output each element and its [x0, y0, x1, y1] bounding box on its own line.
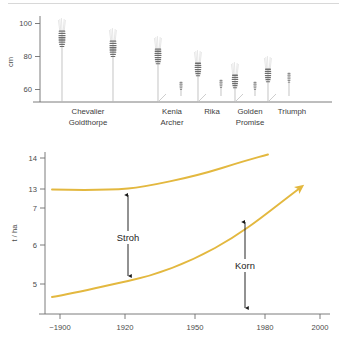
- bottom-chart-y-ticks: 14 13 7 6 5: [29, 154, 45, 289]
- plant-archer: [179, 82, 182, 96]
- bottom-x-tick-2000: 2000: [312, 323, 329, 332]
- top-chart-y-axis-title: cm: [6, 57, 15, 67]
- series-label-stroh-top: Stroh: [117, 232, 139, 243]
- top-y-tick-60: 60: [24, 85, 32, 94]
- plant-golden-promise-secondary: [253, 82, 256, 96]
- series-label-korn-top: Korn: [235, 260, 255, 271]
- bottom-x-tick-1920: 1920: [117, 323, 134, 332]
- bottom-y-tick-7: 7: [33, 204, 37, 213]
- bottom-x-tick-1950: 1950: [187, 323, 204, 332]
- yield-trend-chart: 14 13 7 6 5 t / ha ~1900 1920 1950 1980 …: [0, 134, 339, 351]
- plant-goldthorpe: [109, 28, 116, 102]
- plant-chevalier: [58, 18, 65, 102]
- plant-rika: [194, 50, 206, 102]
- plant-triumph: [264, 56, 276, 102]
- cat-label-rika: Rika: [204, 107, 220, 116]
- cat-label-triumph: Triumph: [278, 107, 306, 116]
- cat-label-golden-l1: Golden: [237, 107, 262, 116]
- cat-label-golden-l2: Promise: [236, 118, 265, 127]
- bottom-y-tick-6: 6: [33, 241, 37, 250]
- panel-plant-heights: 100 80 60 cm: [0, 6, 339, 134]
- plant-triumph-secondary: [287, 73, 290, 96]
- top-y-tick-100: 100: [19, 19, 32, 28]
- figure-root: 100 80 60 cm: [0, 0, 339, 351]
- plant-kenia: [154, 36, 166, 102]
- curve-stroh: [52, 155, 268, 191]
- cat-label-kenia-l2: Archer: [161, 118, 184, 127]
- bottom-y-tick-13: 13: [29, 185, 37, 194]
- top-divider-rule: [8, 3, 339, 4]
- plant-rika-secondary: [219, 80, 222, 96]
- plant-height-chart: 100 80 60 cm: [0, 6, 339, 134]
- top-y-tick-80: 80: [24, 52, 32, 61]
- curve-korn: [52, 188, 300, 297]
- cat-label-kenia-l1: Kenia: [162, 107, 183, 116]
- bottom-x-tick-1900: ~1900: [49, 323, 70, 332]
- plant-golden-promise: [231, 62, 243, 102]
- bottom-chart-y-axis-title: t / ha: [10, 224, 19, 242]
- bottom-y-tick-14: 14: [29, 154, 37, 163]
- top-chart-y-ticks: 100 80 60: [19, 19, 40, 94]
- bottom-chart-x-ticks: ~1900 1920 1950 1980 2000: [49, 314, 328, 332]
- top-chart-category-labels: Chevalier Goldthorpe Kenia Archer Rika G…: [69, 107, 306, 127]
- cat-label-chevalier-l2: Goldthorpe: [69, 118, 108, 127]
- bottom-y-tick-5: 5: [33, 280, 37, 289]
- panel-yield-trend: 14 13 7 6 5 t / ha ~1900 1920 1950 1980 …: [0, 134, 339, 351]
- bottom-x-tick-1980: 1980: [257, 323, 274, 332]
- cat-label-chevalier-l1: Chevalier: [72, 107, 105, 116]
